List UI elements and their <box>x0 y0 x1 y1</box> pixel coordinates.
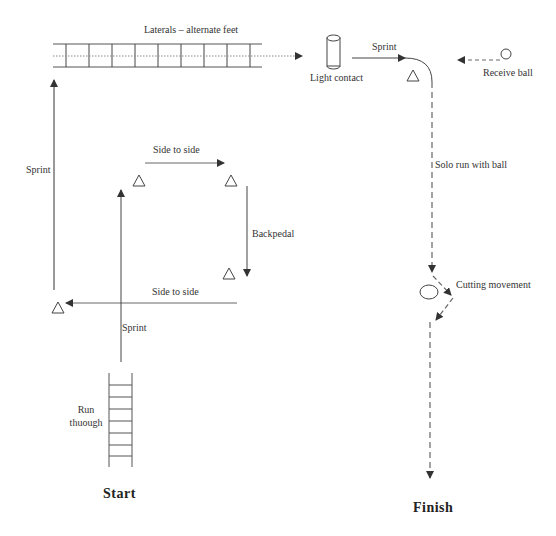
backpedal-label: Backpedal <box>252 229 294 239</box>
sprint-left-label: Sprint <box>26 165 50 175</box>
obstacle-icon <box>420 285 438 299</box>
receive-ball-label: Receive ball <box>483 68 533 78</box>
side-to-side-bottom-label: Side to side <box>152 287 199 297</box>
run-through-label: Run thuough <box>66 403 106 429</box>
light-contact-label: Light contact <box>310 73 363 83</box>
vertical-agility-ladder <box>109 373 132 467</box>
cone-icon <box>133 175 145 186</box>
solo-run-label: Solo run with ball <box>435 160 507 170</box>
sprint-top-label: Sprint <box>372 42 396 52</box>
drill-diagram <box>0 0 556 536</box>
sprint-center-label: Sprint <box>122 323 146 333</box>
cutting-dashed-left <box>436 298 453 320</box>
cone-icon <box>407 70 419 81</box>
cone-icon <box>225 175 237 186</box>
cutting-movement-label: Cutting movement <box>456 280 531 290</box>
start-label: Start <box>103 487 136 501</box>
laterals-label: Laterals – alternate feet <box>144 25 238 35</box>
cone-icon <box>52 302 64 313</box>
ball-icon <box>501 49 511 59</box>
cylinder-dummy-icon <box>327 35 340 69</box>
cone-icon <box>223 268 235 279</box>
side-to-side-top-label: Side to side <box>153 145 200 155</box>
finish-label: Finish <box>413 501 453 515</box>
